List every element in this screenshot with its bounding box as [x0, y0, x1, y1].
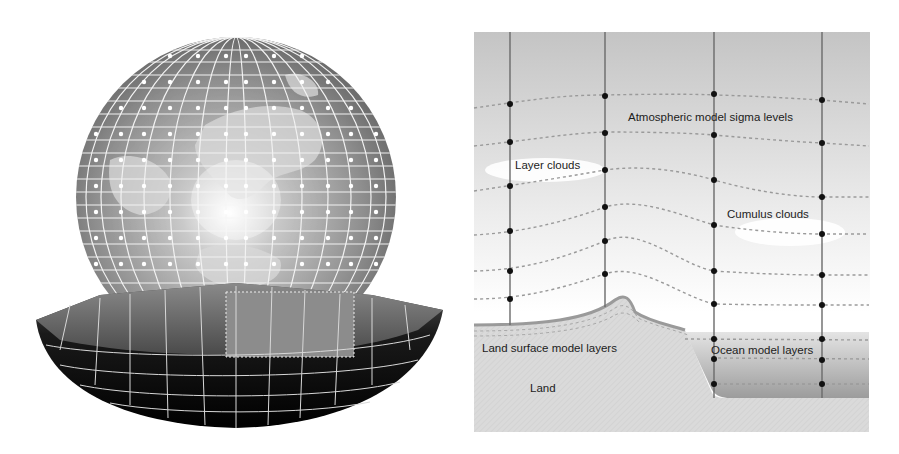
globe-cutaway-base: [36, 283, 443, 428]
cumulus-cloud: [735, 218, 845, 246]
label-land-surface-layers: Land surface model layers: [482, 342, 617, 354]
globe-highlight: [191, 160, 281, 240]
cross-section-panel: Atmospheric model sigma levels Layer clo…: [474, 32, 870, 432]
label-land: Land: [530, 382, 556, 394]
label-ocean-layers: Ocean model layers: [711, 344, 814, 356]
label-sigma-levels: Atmospheric model sigma levels: [628, 111, 793, 123]
label-layer-clouds: Layer clouds: [515, 159, 580, 171]
ocean-area: [685, 332, 869, 398]
label-cumulus-clouds: Cumulus clouds: [727, 208, 809, 220]
diagram-canvas: Atmospheric model sigma levels Layer clo…: [0, 0, 899, 454]
cutaway-section: [226, 292, 354, 357]
